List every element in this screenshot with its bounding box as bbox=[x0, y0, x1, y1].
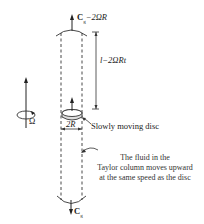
top-velocity-label: Cg−2ΩR bbox=[77, 13, 107, 24]
column-caption: The fluid in the Taylor column moves upw… bbox=[86, 153, 204, 183]
down-arrow-icon bbox=[69, 209, 73, 215]
length-label: l−2ΩRt bbox=[100, 56, 126, 65]
disc-up-arrow-icon bbox=[70, 97, 74, 103]
disc-label: Slowly moving disc bbox=[91, 122, 159, 131]
bottom-velocity-label: Cg bbox=[74, 207, 83, 218]
rotation-label: Ω bbox=[29, 117, 35, 126]
width-label: 2R bbox=[66, 120, 75, 129]
taylor-column-diagram bbox=[0, 0, 204, 224]
up-arrow-icon bbox=[70, 14, 74, 20]
